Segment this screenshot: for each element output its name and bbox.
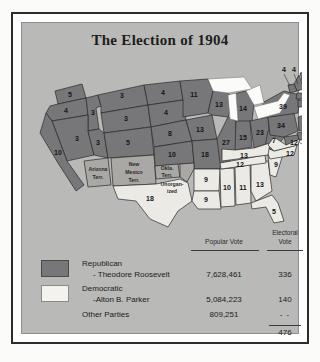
election-map-figure: The Election of 1904 bbox=[0, 0, 320, 362]
votes-indiana: 15 bbox=[239, 134, 247, 141]
votes-nevada: 3 bbox=[75, 135, 79, 142]
popular-vote-republican: 7,628,461 bbox=[187, 270, 261, 279]
column-header-popular-vote: Popular Vote bbox=[187, 237, 261, 246]
votes-south-dakota: 4 bbox=[164, 109, 168, 116]
party-name-republican: Republican bbox=[82, 259, 122, 268]
label-arizona-terr-2: Terr. bbox=[93, 174, 104, 180]
votes-idaho: 3 bbox=[91, 109, 95, 116]
votes-iowa: 13 bbox=[196, 126, 204, 133]
votes-west-virginia: 7 bbox=[272, 137, 276, 144]
votes-north-dakota: 4 bbox=[161, 89, 165, 96]
votes-illinois: 27 bbox=[222, 139, 230, 146]
legend-swatch-republican bbox=[41, 260, 69, 277]
votes-ohio: 23 bbox=[256, 129, 264, 136]
territory-arizona[interactable] bbox=[84, 158, 111, 187]
votes-mississippi: 10 bbox=[223, 184, 231, 191]
votes-utah: 3 bbox=[96, 139, 100, 146]
label-unorganized-1: Unorgan- bbox=[160, 181, 183, 187]
votes-pennsylvania: 34 bbox=[277, 122, 285, 129]
votes-florida: 5 bbox=[272, 208, 276, 215]
label-new-mexico-terr-2: Mexico bbox=[125, 169, 143, 175]
rule-total bbox=[269, 325, 301, 326]
votes-alabama: 11 bbox=[239, 184, 247, 191]
figure-frame: The Election of 1904 bbox=[11, 12, 309, 344]
label-arizona-terr-1: Arizona bbox=[88, 166, 107, 172]
results-table: Popular Vote Electoral Vote Republican -… bbox=[41, 228, 303, 346]
lake-michigan bbox=[228, 93, 238, 121]
us-electoral-map: 5 4 3 3 3 3 3 10 5 4 4 8 10 11 13 13 18 … bbox=[22, 51, 302, 229]
column-header-electoral-line2: Vote bbox=[278, 238, 291, 245]
electoral-vote-other: - - bbox=[263, 310, 307, 319]
popular-vote-democratic: 5,084,223 bbox=[187, 295, 261, 304]
votes-minnesota: 11 bbox=[190, 91, 198, 98]
label-unorganized-2: ized bbox=[167, 188, 177, 194]
votes-arkansas: 9 bbox=[204, 176, 208, 183]
state-new-jersey[interactable] bbox=[298, 115, 302, 131]
state-connecticut[interactable] bbox=[298, 100, 302, 107]
votes-texas: 18 bbox=[146, 195, 154, 202]
votes-missouri: 18 bbox=[201, 151, 209, 158]
rule-popular bbox=[191, 250, 259, 251]
votes-washington: 5 bbox=[68, 91, 72, 98]
votes-kentucky: 13 bbox=[240, 152, 248, 159]
votes-north-carolina: 12 bbox=[286, 150, 294, 157]
electoral-vote-republican: 336 bbox=[263, 270, 307, 279]
territory-unorganized[interactable] bbox=[180, 163, 194, 182]
votes-kansas: 10 bbox=[168, 151, 176, 158]
electoral-vote-democratic: 140 bbox=[263, 295, 307, 304]
votes-tennessee: 12 bbox=[236, 161, 244, 168]
leader-vermont bbox=[284, 74, 290, 86]
leader-maryland bbox=[300, 143, 302, 147]
votes-louisiana: 9 bbox=[204, 196, 208, 203]
votes-new-hampshire: 4 bbox=[292, 66, 296, 73]
column-header-electoral-vote: Electoral Vote bbox=[263, 228, 307, 246]
votes-georgia: 13 bbox=[256, 181, 264, 188]
votes-wisconsin: 13 bbox=[215, 101, 223, 108]
votes-nebraska: 8 bbox=[168, 130, 172, 137]
votes-vermont: 4 bbox=[282, 66, 286, 73]
state-massachusetts[interactable] bbox=[296, 93, 302, 99]
votes-michigan: 14 bbox=[239, 105, 247, 112]
candidate-democratic: -Alton B. Parker bbox=[93, 295, 149, 304]
label-new-mexico-terr-1: New bbox=[129, 161, 141, 167]
popular-vote-other: 809,251 bbox=[187, 310, 261, 319]
votes-south-carolina: 9 bbox=[274, 161, 278, 168]
label-okla-terr-2: Terr. bbox=[162, 172, 173, 178]
legend-swatch-democratic bbox=[41, 285, 69, 302]
votes-oregon: 4 bbox=[64, 107, 68, 114]
label-new-mexico-terr-3: Terr. bbox=[129, 177, 140, 183]
votes-new-york: 39 bbox=[279, 103, 287, 110]
votes-virginia: 12 bbox=[290, 139, 298, 146]
party-name-other: Other Parties bbox=[82, 310, 129, 319]
column-header-electoral-line1: Electoral bbox=[272, 229, 298, 236]
rule-electoral bbox=[267, 250, 303, 251]
votes-wyoming: 3 bbox=[124, 115, 128, 122]
label-okla-terr-1: Okla. bbox=[161, 165, 174, 171]
lake-superior bbox=[208, 77, 252, 93]
votes-california: 10 bbox=[54, 149, 62, 156]
figure-plate: The Election of 1904 bbox=[21, 22, 299, 334]
electoral-vote-total: 476 bbox=[263, 328, 307, 337]
party-name-democratic: Democratic bbox=[82, 284, 122, 293]
votes-montana: 3 bbox=[120, 92, 124, 99]
votes-colorado: 5 bbox=[126, 139, 130, 146]
candidate-republican: - Theodore Roosevelt bbox=[93, 270, 170, 279]
page-title: The Election of 1904 bbox=[22, 32, 298, 49]
